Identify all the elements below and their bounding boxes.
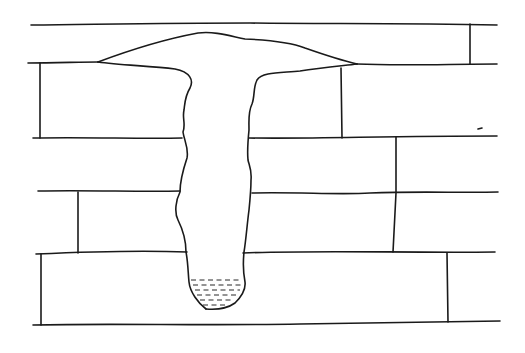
speck-mark [478, 128, 482, 129]
joint-row3-left [33, 138, 182, 139]
cavity [98, 33, 357, 310]
joint-row3-right [249, 136, 497, 138]
joint-row2-right [357, 64, 497, 65]
head-joint-7 [447, 253, 448, 322]
joint-row4-left [38, 191, 180, 192]
joint-row5-left [36, 251, 187, 254]
joint-row4-right [252, 192, 498, 194]
head-joint-4 [393, 137, 396, 252]
joint-top [31, 23, 497, 25]
diagram-canvas: Line drawing of a brick wall cross-secti… [0, 0, 525, 353]
head-joint-3 [341, 68, 342, 138]
brick-wall-diagram [0, 0, 525, 353]
cavity-shaft-left [98, 62, 206, 309]
joint-row2-left [28, 62, 98, 63]
brick-wall [28, 23, 500, 325]
joint-bottom [33, 321, 500, 325]
joint-row5-right [243, 252, 495, 253]
cavity-cap [98, 33, 357, 64]
cavity-shaft-right [206, 64, 357, 309]
